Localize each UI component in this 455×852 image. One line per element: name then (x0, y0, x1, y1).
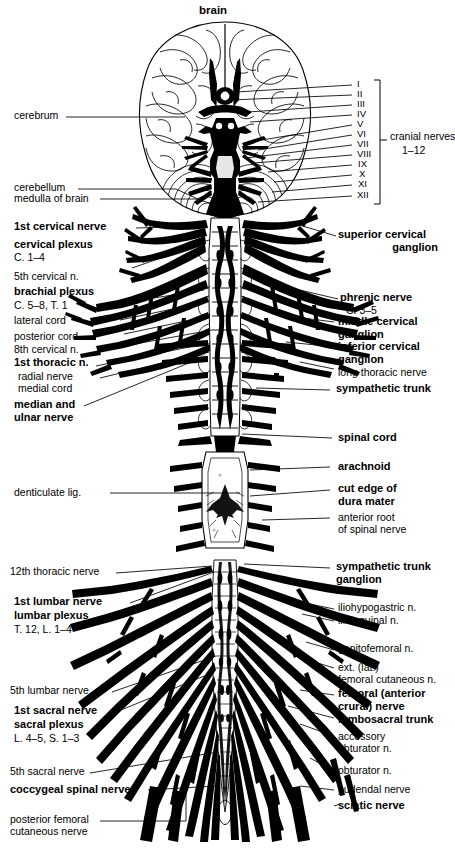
label-first-sacral-nerve: 1st sacral nerve (14, 705, 97, 717)
label-fifth-cervical-n: 5th cervical n. (14, 271, 79, 282)
label-lateral-cord: lateral cord (14, 315, 66, 326)
label-radial-nerve: radial nerve (18, 371, 73, 382)
label-phrenic-nerve: phrenic nerve (340, 292, 412, 304)
cranial-numeral-11: XI (358, 179, 367, 189)
label-pudendal-nerve: pudendal nerve (338, 784, 410, 795)
label-fifth-lumbar-nerve: 5th lumbar nerve (10, 685, 89, 696)
label-cut-edge-dura-line2: dura mater (338, 496, 395, 508)
label-sympathetic-trunk-ganglion-line2: ganglion (336, 574, 382, 586)
label-posterior-femoral-cutaneous-line2: cutaneous nerve (10, 826, 88, 837)
label-superior-cervical-ganglion-line2: ganglion (338, 242, 438, 254)
label-inferior-cervical-ganglion-line2: ganglion (338, 354, 384, 366)
label-first-lumbar-nerve: 1st lumbar nerve (14, 596, 102, 608)
label-accessory-obturator-line2: obturator n. (338, 743, 392, 754)
label-median-ulnar-nerve-line2: ulnar nerve (14, 412, 73, 424)
label-ext-lat-femoral-cutaneous-line2: femoral cutaneous n. (338, 674, 436, 685)
label-first-cervical-nerve: 1st cervical nerve (14, 221, 106, 233)
label-ilioinguinal-n: ilioinguinal n. (338, 615, 399, 626)
label-medulla-of-brain: medulla of brain (14, 193, 89, 204)
label-sciatic-nerve: sciatic nerve (338, 800, 405, 812)
dura-window-section (170, 452, 280, 552)
label-femoral-nerve-line2: crural) nerve (338, 701, 405, 713)
label-first-thoracic-n: 1st thoracic n. (14, 357, 89, 369)
label-long-thoracic-nerve: long thoracic nerve (338, 367, 427, 378)
label-sympathetic-trunk: sympathetic trunk (336, 383, 431, 395)
label-denticulate-lig: denticulate lig. (14, 487, 81, 498)
label-twelfth-thoracic-nerve: 12th thoracic nerve (10, 566, 99, 577)
label-lumbar-plexus-roots: T. 12, L. 1–4 (14, 624, 72, 635)
brain-figure (140, 22, 311, 220)
label-femoral-nerve-line1: femoral (anterior (338, 688, 425, 700)
label-coccygeal-spinal-nerve: coccygeal spinal nerve (10, 784, 130, 796)
label-ext-lat-femoral-cutaneous-line1: ext. (lat.) (338, 662, 379, 673)
label-lumbar-plexus: lumbar plexus (14, 610, 89, 622)
label-brachial-plexus: brachial plexus (14, 286, 94, 298)
label-accessory-obturator-line1: accessory (338, 731, 385, 742)
page-title: brain (199, 4, 227, 16)
label-lumbosacral-trunk: lumbosacral trunk (338, 714, 433, 726)
label-anterior-root-line1: anterior root (338, 512, 395, 523)
label-genitofemoral-n: genitofemoral n. (338, 643, 413, 654)
label-eighth-cervical-n: 8th cervical n. (14, 344, 79, 355)
label-cranial-nerves-range: 1–12 (402, 145, 425, 156)
label-middle-cervical-ganglion-line1: middle cervical (338, 316, 418, 328)
label-posterior-cord: posterior cord (14, 331, 78, 342)
label-cerebrum: cerebrum (14, 110, 58, 121)
cranial-numeral-12: XII (357, 190, 369, 200)
label-superior-cervical-ganglion-line1: superior cervical (338, 229, 426, 241)
label-fifth-sacral-nerve: 5th sacral nerve (10, 766, 85, 777)
label-brachial-plexus-roots: C. 5–8, T. 1 (14, 300, 68, 311)
label-posterior-femoral-cutaneous-line1: posterior femoral (10, 814, 89, 825)
label-median-ulnar-nerve-line1: median and (14, 399, 75, 411)
label-inferior-cervical-ganglion-line1: inferior cervical (338, 341, 420, 353)
label-cervical-plexus-roots: C. 1–4 (14, 252, 45, 263)
label-anterior-root-line2: of spinal nerve (338, 524, 406, 535)
label-iliohypogastric-n: iliohypogastric n. (338, 602, 416, 613)
lumbosacral-plexus (70, 560, 380, 842)
label-spinal-cord: spinal cord (338, 432, 397, 444)
label-sacral-plexus: sacral plexus (14, 719, 84, 731)
label-cut-edge-dura-line1: cut edge of (338, 483, 397, 495)
label-sympathetic-trunk-ganglion-line1: sympathetic trunk (336, 561, 431, 573)
label-middle-cervical-ganglion-line2: ganglion (338, 329, 384, 341)
label-medial-cord: medial cord (18, 383, 72, 394)
label-arachnoid: arachnoid (338, 461, 391, 473)
label-sacral-plexus-roots: L. 4–5, S. 1–3 (14, 733, 79, 744)
label-cervical-plexus: cervical plexus (14, 239, 93, 251)
label-cranial-nerves: cranial nerves (390, 131, 455, 142)
label-obturator-n: obturator n. (338, 765, 392, 776)
